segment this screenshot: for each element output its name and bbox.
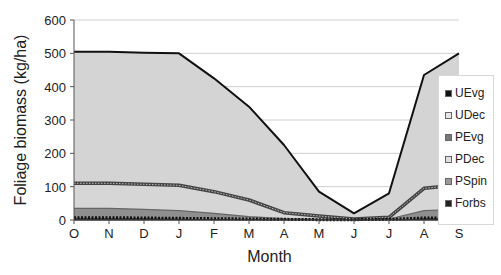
x-tick-label: J	[176, 226, 183, 241]
legend-item-pdec: PDec	[445, 148, 493, 170]
x-axis-title: Month	[247, 248, 291, 265]
legend-item-forbs: Forbs	[445, 192, 493, 214]
legend-item-pevg: PEvg	[445, 126, 493, 148]
swatch-icon	[445, 112, 452, 119]
legend-item-udec: UDec	[445, 104, 493, 126]
swatch-icon	[445, 200, 452, 207]
x-tick-label: M	[244, 226, 255, 241]
x-tick-label: F	[210, 226, 218, 241]
x-tick-label: D	[139, 226, 148, 241]
y-tick-label: 300	[44, 113, 66, 128]
x-tick-label: J	[351, 226, 358, 241]
legend-item-uevg: UEvg	[445, 82, 493, 104]
x-tick-label: O	[69, 226, 79, 241]
swatch-icon	[445, 156, 452, 163]
legend-item-pspin: PSpin	[445, 170, 493, 192]
swatch-icon	[445, 134, 452, 141]
x-tick-label: A	[280, 226, 289, 241]
y-tick-label: 100	[44, 180, 66, 195]
chart-container: 0100200300400500600ONDJFMAMJJASMonthFoli…	[0, 0, 501, 275]
x-tick-label: M	[314, 226, 325, 241]
x-tick-label: A	[420, 226, 429, 241]
x-tick-label: N	[104, 226, 113, 241]
legend: UEvg UDec PEvg PDec PSpin Forbs	[438, 75, 494, 225]
swatch-icon	[445, 90, 452, 97]
y-tick-label: 600	[44, 13, 66, 28]
x-tick-label: J	[386, 226, 393, 241]
swatch-icon	[445, 178, 452, 185]
x-tick-label: S	[455, 226, 464, 241]
y-tick-label: 400	[44, 80, 66, 95]
y-axis-title: Foliage biomass (kg/ha)	[12, 35, 29, 206]
y-tick-label: 500	[44, 46, 66, 61]
y-tick-label: 200	[44, 146, 66, 161]
y-tick-label: 0	[59, 213, 66, 228]
area-chart: 0100200300400500600ONDJFMAMJJASMonthFoli…	[0, 0, 501, 275]
